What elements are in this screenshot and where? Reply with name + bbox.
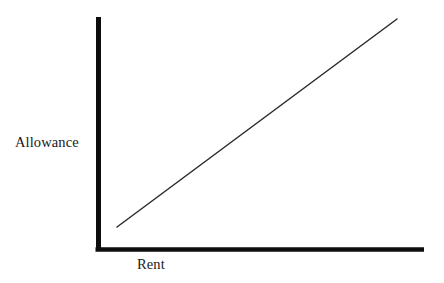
line-graph-figure: Allowance Rent	[0, 0, 444, 283]
x-axis-label: Rent	[137, 257, 165, 272]
y-axis-label: Allowance	[15, 135, 79, 150]
